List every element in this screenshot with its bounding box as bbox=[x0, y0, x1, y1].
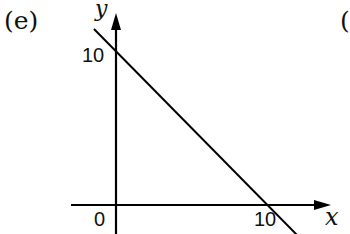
part-label: (e) bbox=[4, 6, 38, 35]
plotted-line bbox=[94, 29, 298, 234]
origin-label: 0 bbox=[94, 208, 105, 231]
x-axis-label: x bbox=[325, 203, 339, 231]
x-intercept-label: 10 bbox=[254, 208, 276, 231]
y-axis-arrow-icon bbox=[111, 13, 121, 30]
y-intercept-label: 10 bbox=[82, 44, 104, 67]
y-axis-label: y bbox=[95, 0, 107, 21]
next-part-fragment: ( bbox=[340, 6, 350, 35]
